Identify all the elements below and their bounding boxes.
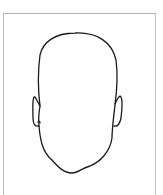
head-contour <box>39 33 118 173</box>
head-outline-drawing <box>0 0 163 195</box>
